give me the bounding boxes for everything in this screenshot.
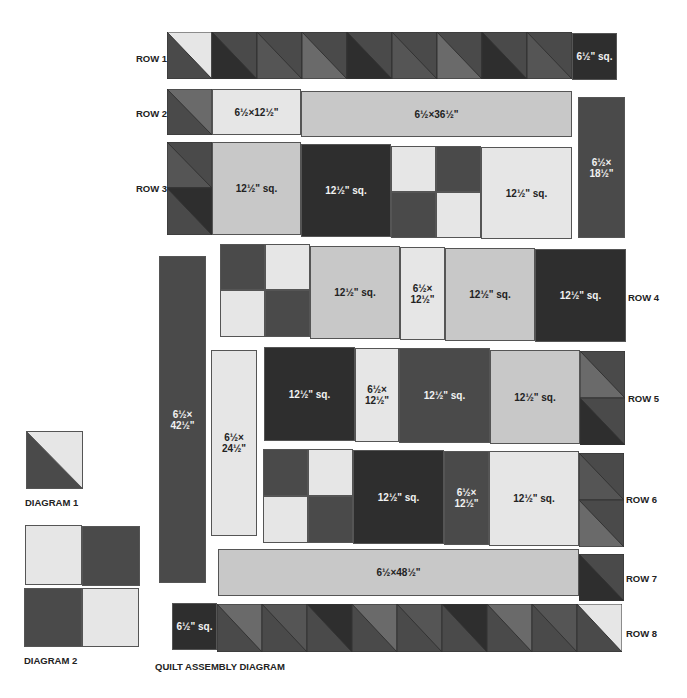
row-4-square-2: 12½" sq. [445, 248, 535, 341]
row-2-hst-block [167, 89, 212, 135]
row-1-label: ROW 1 [136, 53, 167, 64]
row-4-square-1: 12½" sq. [310, 246, 400, 339]
row-5-square-1: 12½" sq. [264, 347, 355, 441]
row-7-rect-6x48: 6½×48½" [218, 549, 579, 596]
row-7-hst-block [579, 554, 624, 601]
row-3-hst-column [167, 142, 212, 235]
four-patch-dark [24, 588, 82, 647]
four-patch-light [82, 588, 139, 647]
four-patch-light [25, 525, 82, 585]
row-2-rect-6x12: 6½×12½" [212, 89, 301, 135]
row-4-label: ROW 4 [628, 292, 659, 303]
row-2-rect-6x36: 6½×36½" [301, 91, 572, 137]
strip-6x18: 6½× 18½" [578, 97, 625, 238]
four-patch-light [265, 244, 310, 290]
row-1: 6½" sq. [167, 32, 617, 79]
row-8-start-square: 6½" sq. [172, 603, 217, 650]
diagram-2-caption: DIAGRAM 2 [24, 655, 77, 666]
four-patch-light [263, 496, 308, 543]
row-4-rect-6x12: 6½× 12½" [400, 247, 445, 340]
diagram-2-four-patch [24, 525, 140, 647]
four-patch-dark [391, 192, 436, 238]
four-patch-light [308, 449, 353, 496]
row-8-hst-blocks [217, 604, 622, 652]
four-patch-dark [265, 290, 310, 337]
row-4-square-3: 12½" sq. [535, 249, 626, 342]
quilt-assembly-caption: QUILT ASSEMBLY DIAGRAM [155, 661, 285, 672]
row-6-square-2: 12½" sq. [489, 451, 579, 546]
row-3-square-3: 12½" sq. [481, 147, 572, 239]
row-7-label: ROW 7 [626, 573, 657, 584]
four-patch-light [436, 192, 481, 238]
row-8-label: ROW 8 [626, 628, 657, 639]
diagram-1-hst [26, 431, 83, 489]
row-6-label: ROW 6 [626, 494, 657, 505]
row-6-rect-6x12: 6½× 12½" [444, 451, 489, 545]
row-1-hst-blocks [167, 32, 572, 79]
four-patch-dark [82, 526, 140, 586]
diagram-1-caption: DIAGRAM 1 [25, 497, 78, 508]
row-1-end-square: 6½" sq. [572, 33, 617, 80]
row-2-label: ROW 2 [136, 108, 167, 119]
four-patch-dark [220, 244, 265, 290]
four-patch-dark [436, 146, 481, 192]
row-6-four-patch [263, 449, 353, 543]
four-patch-dark [308, 496, 353, 543]
row-3-label: ROW 3 [136, 183, 167, 194]
row-3-square-2: 12½" sq. [301, 144, 391, 237]
row-5-label: ROW 5 [628, 393, 659, 404]
row-6-square-1: 12½" sq. [353, 450, 444, 544]
four-patch-light [220, 290, 265, 337]
row-5-square-3: 12½" sq. [490, 350, 580, 444]
strip-6x42: 6½× 42½" [159, 256, 206, 583]
row-5-rect-6x12: 6½× 12½" [355, 348, 399, 442]
row-5-square-2: 12½" sq. [399, 348, 490, 443]
strip-6x24: 6½× 24½" [211, 350, 257, 536]
row-3-four-patch [391, 146, 481, 238]
four-patch-dark [263, 449, 308, 496]
row-4-four-patch [220, 244, 310, 337]
row-6-hst-column [579, 453, 624, 547]
four-patch-light [391, 146, 436, 192]
row-3-square-1: 12½" sq. [212, 142, 301, 235]
row-5-hst-column [580, 351, 625, 445]
